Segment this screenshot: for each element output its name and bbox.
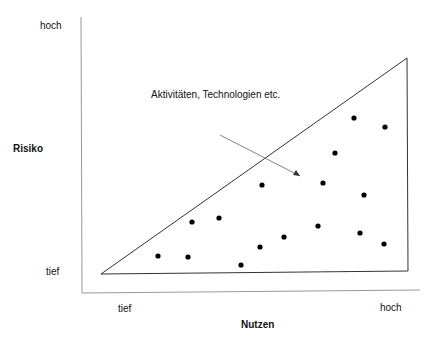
data-point bbox=[332, 150, 337, 155]
y-axis-label: Risiko bbox=[13, 143, 43, 154]
data-point bbox=[259, 182, 264, 187]
data-point bbox=[257, 244, 262, 249]
data-point bbox=[357, 230, 362, 235]
y-high-label: hoch bbox=[40, 20, 62, 31]
annotation-label: Aktivitäten, Technologien etc. bbox=[151, 89, 280, 100]
data-point bbox=[381, 241, 386, 246]
y-axis-line bbox=[81, 17, 82, 293]
data-point bbox=[315, 223, 320, 228]
x-axis-label: Nutzen bbox=[241, 319, 274, 330]
data-point bbox=[238, 262, 243, 267]
data-point bbox=[155, 253, 160, 258]
data-points bbox=[155, 115, 387, 267]
data-point bbox=[351, 115, 356, 120]
data-point bbox=[320, 180, 325, 185]
x-high-label: hoch bbox=[380, 302, 402, 313]
diagram-canvas bbox=[0, 0, 434, 340]
data-point bbox=[281, 234, 286, 239]
data-point bbox=[382, 124, 387, 129]
data-point bbox=[361, 192, 366, 197]
data-point bbox=[216, 215, 221, 220]
annotation-arrow bbox=[220, 135, 300, 176]
x-axis-line bbox=[82, 290, 420, 293]
data-point bbox=[189, 219, 194, 224]
x-low-label: tief bbox=[118, 303, 131, 314]
data-point bbox=[185, 254, 190, 259]
y-low-label: tief bbox=[46, 266, 59, 277]
